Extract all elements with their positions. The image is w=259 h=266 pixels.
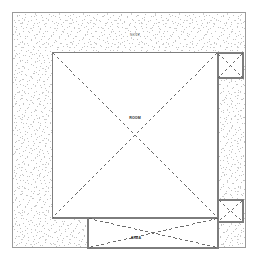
- annotation-bottom-note: AREA: [131, 237, 142, 241]
- plan-drawing-canvas: NOTE ROOM AREA: [0, 0, 259, 266]
- annotation-center-note: ROOM: [129, 117, 141, 121]
- annotation-top-note: NOTE: [130, 34, 140, 37]
- plan-vector-layer: [0, 0, 259, 266]
